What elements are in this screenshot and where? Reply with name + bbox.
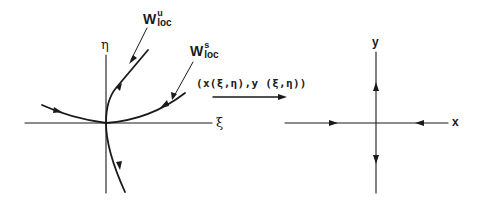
unstable-manifold-label-base: W bbox=[143, 11, 156, 27]
unstable-manifold-label-sub: loc bbox=[157, 18, 171, 28]
lower-manifold-curve bbox=[106, 123, 125, 192]
eta-axis-label: η bbox=[101, 38, 109, 51]
x-axis-label: x bbox=[452, 116, 459, 128]
ws-leader-line bbox=[173, 62, 193, 98]
stable-manifold-curve bbox=[42, 93, 185, 123]
stable-manifold-label-base: W bbox=[190, 43, 203, 59]
y-axis-label: y bbox=[372, 36, 379, 48]
stable-manifold-label-sub: loc bbox=[204, 50, 218, 60]
xi-axis-label: ξ bbox=[216, 116, 223, 129]
mapping-arrowhead-icon bbox=[278, 94, 287, 100]
unstable-manifold-curve bbox=[106, 50, 148, 123]
stable-manifold-label: W s loc bbox=[190, 44, 221, 58]
diagram-canvas bbox=[0, 0, 480, 208]
stable-right-arrow-icon bbox=[160, 100, 169, 108]
y-axis-down-outward-arrow-icon bbox=[373, 155, 379, 164]
lower-down-arrow-icon bbox=[116, 161, 122, 170]
y-axis-up-outward-arrow-icon bbox=[373, 82, 379, 91]
stable-left-arrow-icon bbox=[53, 107, 62, 113]
x-axis-left-inward-arrow-icon bbox=[329, 120, 338, 126]
unstable-down-arrow-icon bbox=[129, 55, 137, 64]
unstable-manifold-label: W u loc bbox=[143, 12, 174, 26]
x-axis-right-inward-arrow-icon bbox=[415, 120, 424, 126]
mapping-label: (x(ξ,η),y (ξ,η)) bbox=[196, 78, 307, 89]
